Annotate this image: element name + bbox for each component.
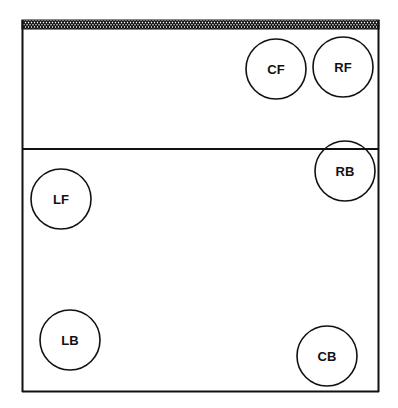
player-label: RF: [334, 60, 351, 75]
net: [22, 20, 379, 29]
player-label: LB: [61, 333, 78, 348]
player-cb: CB: [297, 326, 357, 386]
player-label: CF: [267, 62, 284, 77]
player-label: CB: [318, 349, 337, 364]
player-rb: RB: [315, 141, 375, 201]
player-lb: LB: [40, 310, 100, 370]
player-cf: CF: [246, 39, 306, 99]
player-rf: RF: [313, 37, 373, 97]
player-label: RB: [336, 164, 355, 179]
player-lf: LF: [31, 169, 91, 229]
player-label: LF: [53, 192, 69, 207]
court-diagram: CF RF RB LF LB CB: [0, 0, 398, 408]
